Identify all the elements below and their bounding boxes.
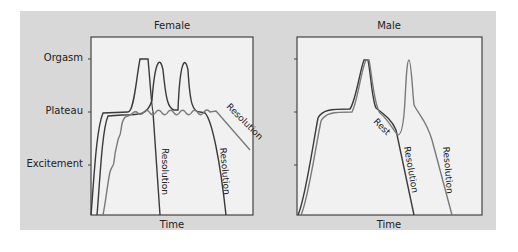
female-plot: Resolution Resolution Resolution [88,37,265,215]
male-plot: Rest Resolution Resolution [294,37,482,215]
female-resolution-label-1: Resolution [160,148,170,195]
diagram-svg: Resolution Resolution Resolution Rest Re… [0,0,518,252]
